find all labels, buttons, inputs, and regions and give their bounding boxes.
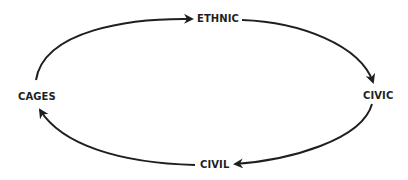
node-civil: CIVIL [200, 159, 229, 171]
cycle-diagram: ETHNIC CIVIC CIVIL CAGES [0, 0, 408, 180]
node-cages: CAGES [18, 91, 56, 103]
arrow-ethnic-to-civic [242, 20, 373, 82]
node-ethnic: ETHNIC [197, 13, 239, 25]
arrow-civil-to-cages [40, 110, 195, 165]
arrow-civic-to-civil [235, 104, 372, 164]
arrow-cages-to-ethnic [36, 19, 192, 80]
node-civic: CIVIC [363, 90, 393, 102]
diagram-arrows [0, 0, 408, 180]
